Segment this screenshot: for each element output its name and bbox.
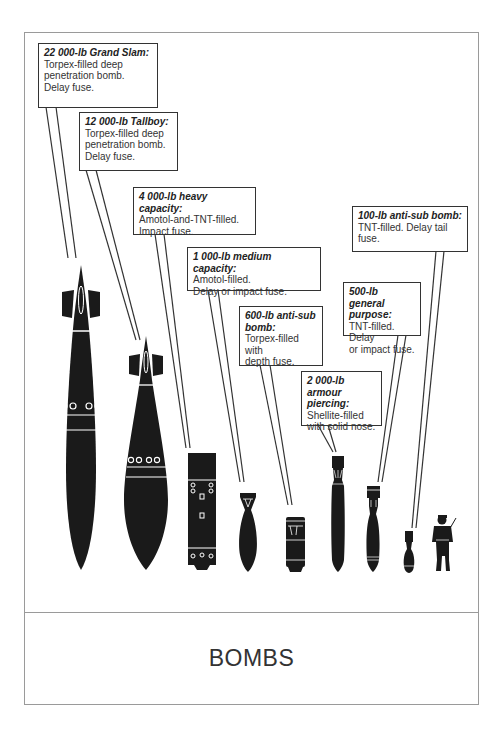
callout-heading: 4 000-lb heavy capacity: [139,191,250,214]
armour-piercing-bomb [331,456,345,572]
bomb-illustrations [0,0,504,736]
person-silhouette-icon [432,515,456,571]
callout-heading: 500-lb general purpose: [349,286,415,321]
callout-body: Torpex-filled deep penetration bomb. Del… [44,59,152,94]
callout-heading: 22 000-lb Grand Slam: [44,47,152,59]
callout-anti-sub-100: 100-lb anti-sub bomb: TNT-filled. Delay … [352,206,468,252]
callout-heavy-capacity: 4 000-lb heavy capacity: Amotol-and-TNT-… [133,187,256,235]
callout-body: Torpex-filled with depth fuse. [245,333,317,368]
general-purpose-bomb [366,486,380,572]
callout-body: Torpex-filled deep penetration bomb. Del… [85,128,172,163]
callout-heading: 100-lb anti-sub bomb: [358,210,462,222]
callout-anti-sub-600: 600-lb anti-sub bomb: Torpex-filled with… [239,306,323,366]
callout-body: Shellite-filled with solid nose. [307,410,376,433]
callout-body: Amotol-filled. Delay or impact fuse. [193,274,315,297]
callout-tallboy: 12 000-lb Tallboy: Torpex-filled deep pe… [79,112,178,171]
anti-sub-100-bomb [404,531,415,573]
callout-heading: 2 000-lb armour piercing: [307,375,376,410]
callout-heading: 1 000-lb medium capacity: [193,251,315,274]
callout-body: TNT-filled. Delay tail fuse. [358,222,462,245]
callout-body: Amotol-and-TNT-filled. Impact fuse. [139,214,250,237]
anti-sub-600-bomb [286,517,305,572]
callout-heading: 600-lb anti-sub bomb: [245,310,317,333]
callout-medium-capacity: 1 000-lb medium capacity: Amotol-filled.… [187,247,321,291]
tallboy-bomb [124,336,168,570]
callout-armour-piercing: 2 000-lb armour piercing: Shellite-fille… [301,371,382,426]
callout-heading: 12 000-lb Tallboy: [85,116,172,128]
callout-grand-slam: 22 000-lb Grand Slam: Torpex-filled deep… [38,43,158,108]
callout-general-purpose: 500-lb general purpose: TNT-filled. Dela… [343,282,421,336]
grand-slam-bomb [58,265,104,570]
medium-capacity-bomb [239,493,257,572]
heavy-capacity-bomb [188,453,216,570]
callout-body: TNT-filled. Delay or impact fuse. [349,321,415,356]
